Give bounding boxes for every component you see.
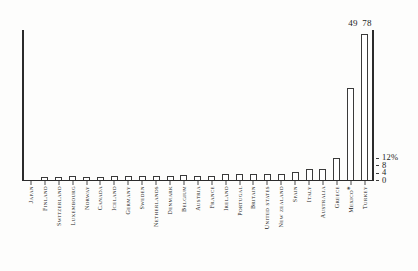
x-axis-label: France bbox=[208, 186, 215, 208]
bar-slot bbox=[247, 30, 261, 180]
x-label-slot: Sweden bbox=[135, 186, 149, 271]
bar-slot bbox=[80, 30, 94, 180]
x-axis-tick bbox=[142, 181, 143, 185]
x-axis-tick bbox=[281, 181, 282, 185]
x-label-slot: Spain bbox=[288, 186, 302, 271]
x-axis-category-labels: JapanFinlandSwitzerlandLuxembourgNorwayC… bbox=[24, 186, 372, 271]
x-axis-label: Turkey bbox=[361, 186, 368, 209]
bar: 78 bbox=[361, 34, 368, 180]
bar bbox=[264, 174, 271, 180]
x-axis-label: Finland bbox=[41, 186, 48, 211]
x-axis-label: Austria bbox=[194, 186, 201, 211]
bar-slot bbox=[260, 30, 274, 180]
x-label-slot: Belgium bbox=[177, 186, 191, 271]
x-label-slot: Norway bbox=[80, 186, 94, 271]
bar bbox=[306, 169, 313, 180]
bar bbox=[55, 177, 62, 180]
bar bbox=[194, 176, 201, 180]
x-axis-label: Sweden bbox=[139, 186, 146, 210]
x-axis-tick bbox=[295, 181, 296, 185]
bar bbox=[97, 177, 104, 180]
x-axis-tick bbox=[336, 181, 337, 185]
x-label-slot: Ireland bbox=[219, 186, 233, 271]
x-axis-label: Belgium bbox=[180, 186, 187, 212]
x-axis-label: Canada bbox=[97, 186, 104, 210]
bar-slot bbox=[24, 30, 38, 180]
x-axis-tick bbox=[183, 181, 184, 185]
y-axis-tick-mark bbox=[376, 158, 379, 159]
y-axis-tick-mark bbox=[376, 165, 379, 166]
x-label-slot: Austria bbox=[191, 186, 205, 271]
x-label-slot: Japan bbox=[24, 186, 38, 271]
x-label-slot: Germany bbox=[121, 186, 135, 271]
x-axis-tick bbox=[156, 181, 157, 185]
x-axis-label: Switzerland bbox=[55, 186, 62, 226]
x-axis-label: Netherlands bbox=[152, 186, 159, 227]
bar-slot bbox=[107, 30, 121, 180]
bar-slot bbox=[219, 30, 233, 180]
bar bbox=[250, 174, 257, 180]
bar bbox=[208, 176, 215, 180]
bar bbox=[41, 177, 48, 180]
x-axis-label: Mexico* bbox=[347, 186, 354, 213]
x-axis-label: Denmark bbox=[166, 186, 173, 214]
x-axis-tick bbox=[239, 181, 240, 185]
x-axis-label: Norway bbox=[83, 186, 90, 210]
bar-slot bbox=[233, 30, 247, 180]
x-axis-label: New Zealand bbox=[278, 186, 285, 227]
x-label-slot: New Zealand bbox=[274, 186, 288, 271]
x-label-slot: Mexico* bbox=[344, 186, 358, 271]
x-label-slot: France bbox=[205, 186, 219, 271]
x-axis-tick bbox=[114, 181, 115, 185]
bar-slot bbox=[205, 30, 219, 180]
y-axis-tick-label: 12% bbox=[382, 153, 398, 162]
bar: 49 bbox=[347, 88, 354, 180]
x-axis-label: Spain bbox=[291, 186, 298, 202]
x-axis-tick bbox=[197, 181, 198, 185]
bar-slot bbox=[38, 30, 52, 180]
bar-slot bbox=[177, 30, 191, 180]
y-axis-tick-mark bbox=[376, 173, 379, 174]
x-axis-label: Britain bbox=[250, 186, 257, 209]
x-axis-tick bbox=[211, 181, 212, 185]
bar bbox=[333, 158, 340, 180]
x-axis-tick bbox=[128, 181, 129, 185]
x-axis-tick bbox=[170, 181, 171, 185]
bar bbox=[111, 176, 118, 181]
x-axis-label: Iceland bbox=[111, 186, 118, 211]
bar bbox=[125, 176, 132, 180]
bar bbox=[139, 176, 146, 180]
x-label-slot: Luxembourg bbox=[66, 186, 80, 271]
x-axis-tick bbox=[225, 181, 226, 185]
x-axis-label: Luxembourg bbox=[69, 186, 76, 225]
x-label-slot: Denmark bbox=[163, 186, 177, 271]
bar-value-label: 49 bbox=[348, 19, 357, 28]
bar-slot bbox=[316, 30, 330, 180]
bar bbox=[292, 172, 299, 180]
x-axis-tick bbox=[72, 181, 73, 185]
x-label-slot: Britain bbox=[247, 186, 261, 271]
bar-series: 4978 bbox=[24, 30, 372, 180]
plot-area: 4978 bbox=[22, 30, 374, 181]
x-axis-tick bbox=[350, 181, 351, 185]
x-axis-tick bbox=[100, 181, 101, 185]
bar-slot: 78 bbox=[358, 30, 372, 180]
x-axis-label: Ireland bbox=[222, 186, 229, 211]
bar-chart: 4978 04812% JapanFinlandSwitzerlandLuxem… bbox=[0, 0, 418, 271]
bar bbox=[319, 169, 326, 180]
bar-slot bbox=[288, 30, 302, 180]
x-axis-label: Germany bbox=[125, 186, 132, 214]
x-axis-tick bbox=[364, 181, 365, 185]
x-label-slot: Greece bbox=[330, 186, 344, 271]
x-label-slot: Turkey bbox=[358, 186, 372, 271]
x-label-slot: United States bbox=[260, 186, 274, 271]
bar-slot bbox=[274, 30, 288, 180]
bar bbox=[236, 174, 243, 180]
x-axis-tick bbox=[253, 181, 254, 185]
bar-slot bbox=[149, 30, 163, 180]
x-axis-tick bbox=[86, 181, 87, 185]
x-axis-label: Australia bbox=[319, 186, 326, 218]
bar bbox=[180, 175, 187, 180]
bar-slot bbox=[94, 30, 108, 180]
x-label-slot: Canada bbox=[94, 186, 108, 271]
